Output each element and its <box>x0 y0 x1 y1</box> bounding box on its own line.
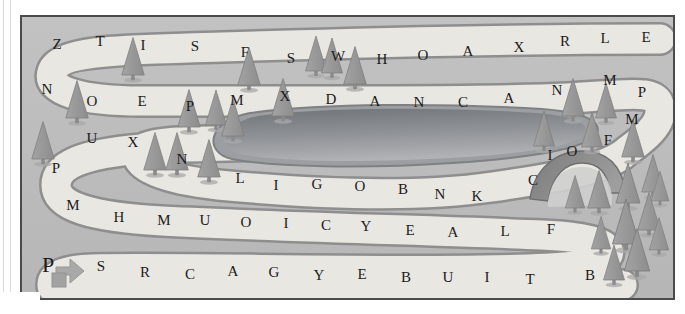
path-letter: E <box>641 30 650 45</box>
path-letter: M <box>157 213 170 228</box>
path-letter: O <box>241 215 252 230</box>
path-letter: I <box>485 270 490 285</box>
path-letter: B <box>401 270 411 285</box>
path-letter: C <box>528 173 538 188</box>
path-letter: U <box>87 131 98 146</box>
path-letter: X <box>280 89 291 104</box>
path-letter: A <box>448 225 459 240</box>
path-letter: O <box>567 144 578 159</box>
path-letter: A <box>370 94 381 109</box>
margin-rule-left-2 <box>10 0 11 300</box>
path-letter: C <box>321 218 331 233</box>
path-letter: E <box>137 94 146 109</box>
path-letter: B <box>398 182 408 197</box>
path-letter: F <box>547 222 555 237</box>
path-letter: M <box>603 73 616 88</box>
path-letter: P <box>42 254 54 276</box>
path-letter: N <box>177 152 188 167</box>
path-letter: K <box>472 189 483 204</box>
path-letter: H <box>377 52 388 67</box>
path-letter: Y <box>361 219 372 234</box>
path-letter: I <box>548 148 553 163</box>
path-letter: O <box>87 94 98 109</box>
path-letter: T <box>525 272 534 287</box>
path-letter: N <box>414 95 425 110</box>
path-letter: M <box>66 198 79 213</box>
path-letter: A <box>504 91 515 106</box>
path-letter: M <box>625 112 638 127</box>
path-letter: D <box>326 92 337 107</box>
path-letter: H <box>114 210 125 225</box>
path-letter: O <box>418 48 429 63</box>
path-letter: X <box>514 40 525 55</box>
path-letter: L <box>600 31 609 46</box>
path-letter: L <box>500 224 509 239</box>
page-root: ZTISFSWHOAXRLENOEPMXDANCANMPUXNMFPLIGOBN… <box>0 0 685 314</box>
path-letter: P <box>52 161 60 176</box>
path-letter: R <box>140 265 150 280</box>
path-letter: U <box>200 213 211 228</box>
path-letter: Y <box>314 268 325 283</box>
path-letter: S <box>97 259 105 274</box>
path-letter: A <box>228 264 239 279</box>
path-letter: R <box>560 34 570 49</box>
path-letter: X <box>128 135 139 150</box>
path-letter: Z <box>52 37 61 52</box>
path-letter: B <box>585 268 595 283</box>
path-letter: N <box>42 82 53 97</box>
path-letter: P <box>186 99 194 114</box>
path-letter: L <box>235 171 244 186</box>
path-letter: S <box>191 39 199 54</box>
path-letter: N <box>435 187 446 202</box>
path-letter: M <box>230 93 243 108</box>
path-letter: I <box>141 38 146 53</box>
path-letter: I <box>274 178 279 193</box>
map-frame: ZTISFSWHOAXRLENOEPMXDANCANMPUXNMFPLIGOBN… <box>20 15 675 300</box>
path-letter: I <box>284 216 289 231</box>
page-edge-bottom <box>0 292 40 314</box>
path-letter: A <box>463 44 474 59</box>
path-letter: P <box>638 85 646 100</box>
path-letter: F <box>604 133 612 148</box>
margin-rule-left-1 <box>3 0 4 314</box>
path-letter: N <box>552 83 563 98</box>
path-letter: E <box>357 267 366 282</box>
path-letter: O <box>355 179 366 194</box>
path-letter: F <box>241 45 249 60</box>
path-letter: C <box>185 267 195 282</box>
path-letter: G <box>312 177 323 192</box>
path-letter: E <box>405 223 414 238</box>
path-letter: C <box>458 95 468 110</box>
path-letter: W <box>331 49 345 64</box>
path-letter: S <box>287 51 295 66</box>
path-letter: T <box>95 34 104 49</box>
path-letter: U <box>443 270 454 285</box>
path-letter: G <box>269 265 280 280</box>
